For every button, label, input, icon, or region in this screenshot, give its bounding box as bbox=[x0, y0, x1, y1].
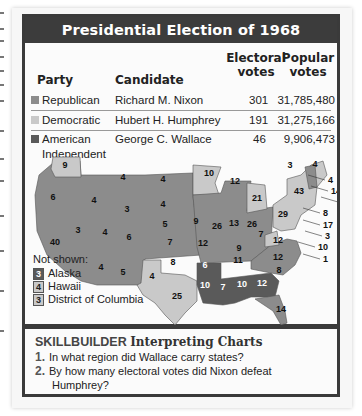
state-vote-label: 12 bbox=[198, 238, 208, 248]
state-vote-label: 9 bbox=[193, 216, 198, 226]
skillbuilder-box: SKILLBUILDER Interpreting Charts 1.In wh… bbox=[22, 327, 340, 397]
state-vote-label: 4 bbox=[102, 227, 107, 237]
state-vote-label: 9 bbox=[236, 243, 241, 253]
header-popular-line2: votes bbox=[273, 65, 343, 79]
state-vote-label: 4 bbox=[160, 199, 165, 209]
chart-title: Presidential Election of 1968 bbox=[25, 17, 337, 43]
popular-votes: 31,785,480 bbox=[277, 91, 335, 109]
hawaii-votes-badge: 4 bbox=[33, 281, 44, 293]
table-row-democratic: Democratic Hubert H. Humphrey 191 31,275… bbox=[31, 111, 331, 129]
candidate-name: Richard M. Nixon bbox=[115, 91, 203, 109]
dc-votes-badge: 3 bbox=[33, 294, 44, 306]
map-state-tx bbox=[137, 260, 197, 325]
state-vote-label: 8 bbox=[170, 257, 175, 267]
question-2: 2.By how many electoral votes did Nixon … bbox=[35, 365, 272, 378]
state-vote-label: 6 bbox=[126, 232, 131, 242]
header-popular-line1: Popular bbox=[273, 51, 343, 65]
state-vote-callout: 3 bbox=[325, 231, 330, 241]
state-vote-label: 21 bbox=[252, 193, 262, 203]
question-2-line2: Humphrey? bbox=[52, 379, 109, 392]
state-vote-label: 7 bbox=[167, 237, 172, 247]
state-vote-label: 4 bbox=[160, 174, 165, 184]
state-vote-label: 8 bbox=[276, 265, 281, 275]
header-party: Party bbox=[37, 73, 73, 87]
state-vote-callout: 17 bbox=[323, 220, 333, 230]
not-shown-hawaii: 4Hawaii bbox=[33, 280, 81, 293]
question-1: 1.In what region did Wallace carry state… bbox=[35, 351, 244, 364]
state-vote-label: 5 bbox=[162, 219, 167, 229]
state-vote-label: 25 bbox=[172, 291, 182, 301]
skillbuilder-label: SKILLBUILDER bbox=[35, 335, 127, 349]
state-vote-label: 6 bbox=[50, 192, 55, 202]
state-vote-label: 6 bbox=[202, 260, 207, 270]
candidate-name: Hubert H. Humphrey bbox=[115, 111, 220, 129]
skillbuilder-subtitle: Interpreting Charts bbox=[130, 335, 262, 349]
state-vote-label: 4 bbox=[149, 271, 154, 281]
state-vote-label: 3 bbox=[75, 225, 80, 235]
state-vote-label: 10 bbox=[200, 280, 210, 290]
state-vote-callout: 14 bbox=[331, 186, 337, 196]
state-vote-label: 14 bbox=[276, 304, 286, 314]
popular-votes: 31,275,166 bbox=[277, 111, 335, 129]
state-vote-label: 9 bbox=[62, 160, 67, 170]
state-vote-callout: 4 bbox=[328, 175, 333, 185]
question-number: 2. bbox=[35, 364, 45, 378]
state-vote-label: 7 bbox=[220, 282, 225, 292]
state-vote-label: 10 bbox=[237, 279, 247, 289]
state-vote-label: 3 bbox=[124, 204, 129, 214]
state-vote-label: 40 bbox=[50, 237, 60, 247]
question-text: By how many electoral votes did Nixon de… bbox=[49, 365, 272, 377]
question-text: In what region did Wallace carry states? bbox=[49, 351, 244, 363]
map-region-northeast bbox=[273, 161, 327, 231]
party-name: Democratic bbox=[42, 114, 100, 126]
state-vote-label: 26 bbox=[247, 219, 257, 229]
state-vote-label: 12 bbox=[230, 176, 240, 186]
state-vote-label: 4 bbox=[98, 262, 103, 272]
hawaii-label: Hawaii bbox=[48, 280, 81, 292]
party-name: Republican bbox=[42, 94, 100, 106]
state-vote-label: 3 bbox=[287, 160, 292, 170]
state-vote-label: 10 bbox=[204, 168, 214, 178]
state-vote-label: 12 bbox=[273, 252, 283, 262]
not-shown-label: Not shown: bbox=[33, 253, 88, 266]
state-vote-label: 12 bbox=[257, 278, 267, 288]
header-popular-votes: Popular votes bbox=[273, 51, 343, 79]
not-shown-alaska: 3Alaska bbox=[33, 267, 81, 280]
alaska-label: Alaska bbox=[48, 267, 81, 279]
state-vote-callout: 1 bbox=[323, 254, 328, 264]
electoral-votes: 191 bbox=[249, 111, 268, 129]
header-candidate: Candidate bbox=[115, 73, 184, 87]
state-vote-label: 12 bbox=[273, 235, 283, 245]
state-vote-label: 43 bbox=[294, 186, 304, 196]
question-number: 1. bbox=[35, 350, 45, 364]
democratic-swatch bbox=[31, 116, 39, 124]
election-chart-frame: Presidential Election of 1968 Party Cand… bbox=[22, 14, 340, 327]
electoral-votes: 301 bbox=[249, 91, 268, 109]
state-vote-callout: 10 bbox=[318, 242, 328, 252]
page-edge-text-fragment bbox=[0, 0, 10, 416]
state-vote-label: 7 bbox=[258, 229, 263, 239]
state-vote-label: 4 bbox=[91, 195, 96, 205]
state-vote-label: 4 bbox=[312, 159, 317, 169]
state-vote-label: 11 bbox=[233, 255, 243, 265]
state-vote-label: 4 bbox=[120, 172, 125, 182]
alaska-votes-badge: 3 bbox=[33, 268, 44, 280]
not-shown-dc: 3District of Columbia bbox=[33, 293, 143, 306]
state-vote-label: 13 bbox=[229, 218, 239, 228]
dc-label: District of Columbia bbox=[48, 293, 143, 305]
republican-swatch bbox=[31, 96, 39, 104]
table-row-republican: Republican Richard M. Nixon 301 31,785,4… bbox=[31, 91, 331, 109]
state-vote-label: 29 bbox=[278, 209, 288, 219]
skillbuilder-heading: SKILLBUILDER Interpreting Charts bbox=[35, 335, 262, 349]
state-vote-callout: 8 bbox=[323, 208, 328, 218]
state-vote-label: 5 bbox=[120, 267, 125, 277]
state-vote-label: 26 bbox=[212, 221, 222, 231]
